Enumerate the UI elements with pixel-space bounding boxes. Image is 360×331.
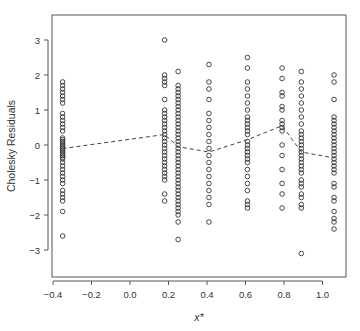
data-point [299,87,304,92]
data-point [207,220,212,225]
y-tick-label: −1 [29,175,40,186]
data-point [299,251,304,256]
data-point [299,115,304,120]
data-point [280,167,285,172]
data-point [162,199,167,204]
data-point [245,94,250,99]
data-point [207,188,212,193]
data-point [332,97,337,102]
data-point [245,167,250,172]
data-point [207,118,212,123]
data-point [245,108,250,113]
data-point [280,153,285,158]
data-point [207,62,212,67]
data-point [280,76,285,81]
data-point [207,111,212,116]
data-point [245,174,250,179]
data-point [280,143,285,148]
y-tick-label: −2 [29,210,40,221]
data-points [60,38,336,256]
data-point [207,160,212,165]
data-point [245,55,250,60]
data-point [245,87,250,92]
y-tick-label: 2 [35,70,40,81]
data-point [245,101,250,106]
data-point [245,66,250,71]
data-point [299,108,304,113]
y-axis: −3−2−10123 [29,35,48,256]
data-point [207,97,212,102]
x-tick-label: 1.0 [316,289,329,300]
data-point [60,209,65,214]
data-point [245,181,250,186]
data-point [207,167,212,172]
y-tick-label: 1 [35,105,40,116]
y-axis-label: Cholesky Residuals [5,100,17,192]
data-point [332,73,337,78]
y-tick-label: 3 [35,35,40,46]
y-tick-label: 0 [35,140,40,151]
x-tick-label: 0.6 [239,289,252,300]
data-point [162,192,167,197]
data-point [60,234,65,239]
data-point [245,80,250,85]
data-point [299,69,304,74]
data-point [207,125,212,130]
data-point [280,66,285,71]
data-point [299,80,304,85]
data-point [207,153,212,158]
x-tick-label: 0.4 [200,289,213,300]
data-point [280,181,285,186]
x-tick-label: 0.0 [123,289,136,300]
data-point [207,139,212,144]
data-point [162,38,167,43]
x-tick-label: 0.2 [162,289,175,300]
data-point [280,192,285,197]
data-point [176,69,181,74]
data-point [207,174,212,179]
data-point [332,227,337,232]
data-point [332,80,337,85]
data-point [207,87,212,92]
trend-line [63,126,334,158]
x-axis-label: x* [193,311,204,323]
y-tick-label: −3 [29,245,40,256]
x-axis: −0.4−0.20.00.20.40.60.81.0 [44,281,329,300]
data-point [245,188,250,193]
data-point [280,206,285,211]
data-point [207,146,212,151]
data-point [176,220,181,225]
data-point [207,195,212,200]
x-tick-label: −0.2 [82,289,101,300]
data-point [207,80,212,85]
data-point [299,122,304,127]
x-tick-label: 0.8 [277,289,290,300]
data-point [162,97,167,102]
data-point [299,101,304,106]
data-point [207,132,212,137]
data-point [299,94,304,99]
data-point [207,202,212,207]
x-tick-label: −0.4 [44,289,63,300]
data-point [176,237,181,242]
data-point [207,181,212,186]
scatter-chart: −0.4−0.20.00.20.40.60.81.0 −3−2−10123 x*… [0,0,360,331]
data-point [332,209,337,214]
